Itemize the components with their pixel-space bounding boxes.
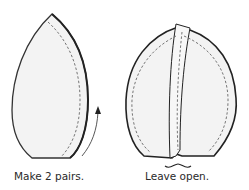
left-petal-shape bbox=[12, 14, 88, 158]
right-petal-figure bbox=[126, 24, 236, 167]
caption-leave-open: Leave open. bbox=[145, 170, 209, 182]
caption-make-pairs: Make 2 pairs. bbox=[14, 170, 84, 182]
arrow-up-icon bbox=[95, 106, 101, 114]
diagram-canvas bbox=[0, 0, 249, 190]
opening-brace-icon bbox=[165, 164, 191, 167]
left-petal-figure bbox=[12, 14, 101, 158]
